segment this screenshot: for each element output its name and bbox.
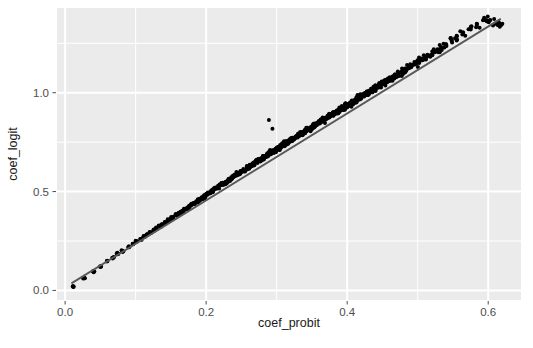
data-point xyxy=(391,79,395,83)
data-point xyxy=(478,26,482,30)
data-point xyxy=(475,23,479,27)
x-tick-label: 0.0 xyxy=(57,306,73,318)
data-point xyxy=(482,18,486,22)
data-point xyxy=(486,14,490,18)
data-point-outlier xyxy=(267,118,271,122)
data-point xyxy=(492,17,496,21)
data-point xyxy=(455,34,459,38)
data-point xyxy=(271,151,275,155)
data-point xyxy=(349,99,353,103)
data-point xyxy=(455,38,459,42)
data-point xyxy=(71,285,75,289)
data-point xyxy=(500,22,504,26)
x-tick-label: 0.2 xyxy=(198,306,214,318)
data-point xyxy=(444,44,448,48)
x-tick-label: 0.4 xyxy=(339,306,356,318)
data-point xyxy=(487,20,491,24)
scatter-plot: 0.00.20.40.6 0.00.51.0 coef_probit coef_… xyxy=(0,0,533,348)
y-axis-title: coef_logit xyxy=(6,127,20,181)
chart-figure: 0.00.20.40.6 0.00.51.0 coef_probit coef_… xyxy=(0,0,533,348)
data-point-outlier xyxy=(270,127,274,131)
x-tick-label: 0.6 xyxy=(480,306,496,318)
y-tick-label: 1.0 xyxy=(33,87,49,99)
data-point xyxy=(460,32,464,36)
data-point xyxy=(432,47,436,51)
plot-panel-background xyxy=(57,8,521,300)
data-point xyxy=(450,41,454,45)
data-point xyxy=(469,28,473,32)
data-point xyxy=(498,25,502,29)
y-tick-label: 0.5 xyxy=(33,186,49,198)
y-tick-label: 0.0 xyxy=(33,284,49,296)
x-axis-title: coef_probit xyxy=(258,316,320,330)
